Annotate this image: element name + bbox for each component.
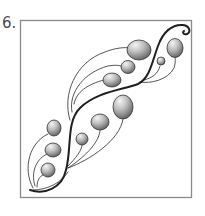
tangle-illustration bbox=[0, 0, 205, 216]
ball bbox=[157, 57, 165, 65]
ball bbox=[45, 143, 61, 157]
ball bbox=[91, 114, 109, 130]
ball bbox=[121, 61, 135, 74]
ball bbox=[113, 95, 133, 119]
ball bbox=[127, 40, 151, 60]
seed-balls bbox=[41, 39, 183, 178]
ball bbox=[103, 73, 121, 87]
ball bbox=[76, 133, 88, 145]
ball bbox=[47, 120, 61, 136]
ball bbox=[41, 163, 55, 177]
ball bbox=[167, 39, 183, 58]
